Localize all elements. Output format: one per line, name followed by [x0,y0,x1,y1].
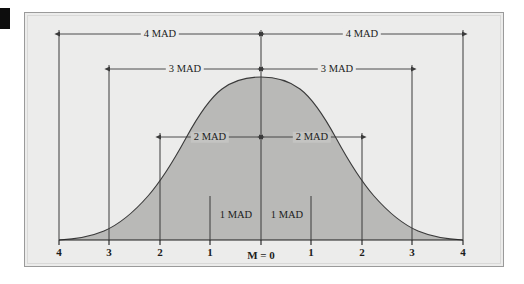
x-axis-tick-label-pos1: 1 [308,247,314,258]
dimension-label-1mad-left: 1 MAD [220,210,252,221]
figure-page: 4 MAD 4 MAD 3 MAD 3 MAD 2 MAD 2 MAD 1 MA… [0,0,524,284]
dimension-label-3mad-right: 3 MAD [318,64,356,75]
dimension-label-3mad-left: 3 MAD [166,64,204,75]
distribution-plot [0,0,524,284]
x-axis-ticks [59,240,463,245]
x-axis-tick-label-pos4: 4 [460,247,466,258]
x-axis-center-label: M = 0 [247,250,275,261]
dimension-label-2mad-right: 2 MAD [293,132,331,143]
dimension-label-2mad-left: 2 MAD [191,132,229,143]
dimension-label-4mad-left: 4 MAD [141,29,179,40]
x-axis-tick-label-neg2: 2 [157,247,163,258]
x-axis-tick-label-neg1: 1 [207,247,213,258]
x-axis-tick-label-neg4: 4 [56,247,62,258]
x-axis-tick-label-pos3: 3 [409,247,415,258]
dimension-label-1mad-right: 1 MAD [271,210,303,221]
x-axis-tick-label-pos2: 2 [359,247,365,258]
dimension-label-4mad-right: 4 MAD [343,29,381,40]
x-axis-tick-label-neg3: 3 [106,247,112,258]
